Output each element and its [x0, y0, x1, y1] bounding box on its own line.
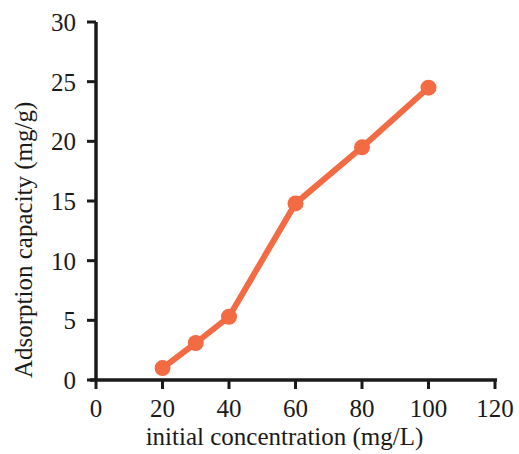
data-point-marker [188, 335, 204, 351]
x-axis-tick-label: 100 [410, 396, 448, 421]
plot-area [0, 0, 519, 454]
x-axis-tick-label: 20 [150, 396, 175, 421]
y-axis-title: Adsorption capacity (mg/g) [10, 102, 38, 378]
y-axis-tick-label: 30 [0, 10, 76, 35]
x-axis-tick-label: 0 [90, 396, 103, 421]
chart-figure: 051015202530 020406080100120 Adsorption … [0, 0, 519, 454]
x-axis-tick-label: 80 [350, 396, 375, 421]
x-axis-tick-label: 40 [217, 396, 242, 421]
data-point-marker [288, 195, 304, 211]
data-point-marker [221, 309, 237, 325]
data-point-marker [354, 139, 370, 155]
data-point-marker [421, 80, 437, 96]
x-axis-title: initial concentration (mg/L) [0, 423, 519, 451]
x-axis-tick-label: 60 [283, 396, 308, 421]
series-markers-adsorption-capacity [155, 80, 437, 376]
data-point-marker [155, 360, 171, 376]
series-line-adsorption-capacity [163, 88, 429, 368]
y-axis-tick-label: 25 [0, 69, 76, 94]
x-axis-tick-label: 120 [476, 396, 514, 421]
